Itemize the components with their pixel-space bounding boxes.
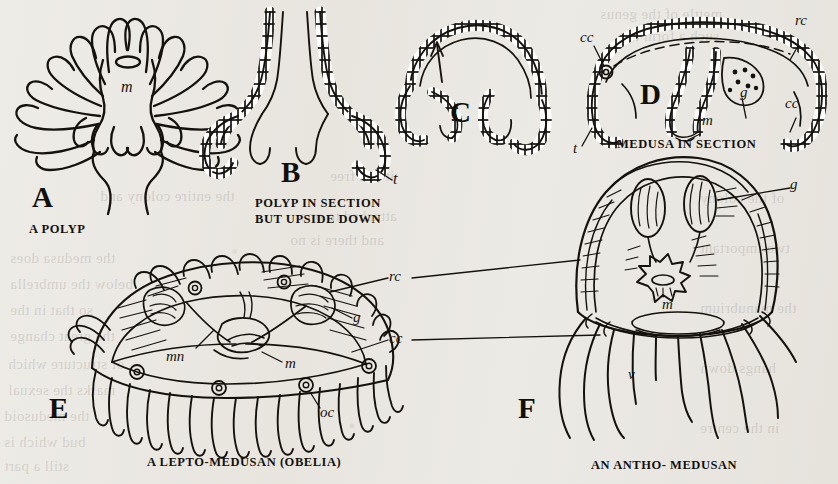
figure-f-letter: F	[518, 392, 536, 425]
label-f-m: m	[662, 296, 673, 313]
label-f-v: v	[628, 366, 635, 383]
label-f-g: g	[790, 176, 798, 193]
illustration-plate: mettle of the genus such a form the the …	[0, 0, 838, 484]
figure-f-caption: AN ANTHO- MEDUSAN	[591, 458, 737, 473]
figure-f-drawing	[0, 0, 838, 484]
